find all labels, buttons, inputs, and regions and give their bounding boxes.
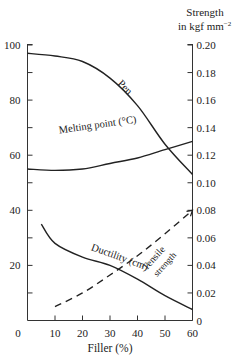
label-pen: Pen	[116, 78, 135, 97]
right-tick-label: 0.06	[197, 232, 217, 244]
x-tick-label: 20	[77, 327, 89, 339]
right-tick-label: 0.20	[197, 39, 217, 51]
tick-labels: 100806040200.200.180.160.140.120.100.080…	[4, 39, 216, 339]
x-axis-label: Filler (%)	[87, 342, 132, 355]
right-axis-title-line2: in kgf mm−2	[178, 20, 232, 32]
x-tick-label: 10	[50, 327, 62, 339]
right-tick-label: 0	[197, 315, 203, 327]
series-melting-point-c	[28, 141, 193, 170]
right-tick-label: 0.18	[197, 67, 217, 79]
right-tick-label: 0.02	[197, 287, 216, 299]
left-tick-label: 80	[10, 94, 22, 106]
right-tick-label: 0.08	[197, 204, 217, 216]
data-curves	[28, 53, 193, 309]
left-tick-label: 40	[10, 204, 22, 216]
right-tick-label: 0.10	[197, 177, 217, 189]
axis-ticks	[28, 45, 193, 321]
chart-svg: Strength in kgf mm−2 100806040200.200.18…	[0, 0, 241, 363]
right-axis-title-line1: Strength	[186, 6, 224, 18]
x-tick-label: 60	[187, 327, 199, 339]
right-tick-label: 0.04	[197, 259, 217, 271]
x-tick-label: 50	[160, 327, 172, 339]
x-tick-label: 0	[15, 327, 21, 339]
right-tick-label: 0.16	[197, 94, 217, 106]
right-tick-label: 0.14	[197, 122, 217, 134]
left-tick-label: 20	[10, 259, 22, 271]
axes	[28, 44, 193, 321]
series-pen	[28, 53, 193, 174]
left-tick-label: 100	[4, 39, 21, 51]
left-tick-label: 60	[10, 149, 22, 161]
x-tick-label: 40	[132, 327, 144, 339]
label-melting-point: Melting point (°C)	[58, 114, 138, 137]
right-tick-label: 0.12	[197, 149, 216, 161]
series-ductility-cm	[41, 224, 192, 309]
x-tick-label: 30	[105, 327, 117, 339]
chart-figure: Strength in kgf mm−2 100806040200.200.18…	[0, 0, 241, 363]
